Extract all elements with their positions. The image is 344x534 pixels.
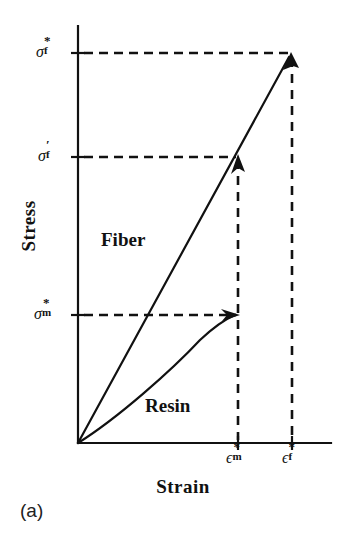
panel-caption: (a) <box>20 500 43 522</box>
epsilon-f-star-affixes: *f <box>288 447 297 463</box>
subscript-m: m <box>42 307 51 318</box>
sigma-glyph: σ <box>38 147 46 164</box>
epsilon-m-star-affixes: *m <box>232 447 244 463</box>
x-axis-title: Strain <box>120 476 246 498</box>
sigma-f-star-affixes: *f <box>44 41 53 57</box>
sigma-f-prime-affixes: ′f <box>46 145 55 161</box>
sigma-glyph: σ <box>36 43 44 60</box>
y-tick-label-sigma-f-star: σ*f <box>36 41 53 60</box>
y-tick-label-sigma-f-prime: σ′f <box>38 145 55 164</box>
x-tick-label-epsilon-m-star: ϵ*m <box>226 447 244 466</box>
x-tick-label-epsilon-f-star: ϵ*f <box>282 447 297 466</box>
resin-curve <box>78 315 235 443</box>
fiber-curve-label: Fiber <box>101 229 145 251</box>
subscript-f: f <box>288 451 292 462</box>
y-axis-title: Stress <box>18 181 40 271</box>
fiber-curve-arrowhead <box>283 52 299 70</box>
subscript-f: f <box>46 149 50 160</box>
y-tick-label-sigma-m-star: σ*m <box>34 303 54 322</box>
subscript-f: f <box>44 45 48 56</box>
subscript-m: m <box>232 451 241 462</box>
resin-curve-label: Resin <box>145 395 190 417</box>
sigma-glyph: σ <box>34 305 42 322</box>
sigma-m-star-affixes: *m <box>42 303 54 319</box>
